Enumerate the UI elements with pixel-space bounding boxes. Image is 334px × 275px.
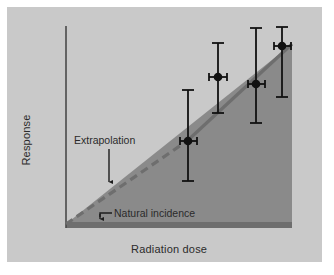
data-marker [278,42,287,51]
figure-container: Response Radiation dose Extrapolation Na… [0,0,334,275]
chart-canvas [0,0,334,275]
extrapolation-annotation-label: Extrapolation [74,134,135,146]
natural-incidence-annotation-label: Natural incidence [114,207,195,219]
data-marker [252,80,261,89]
y-axis-label: Response [20,105,32,175]
natural-incidence-band [66,222,292,228]
x-axis-label: Radiation dose [131,243,207,255]
data-marker [184,137,193,146]
data-marker [214,73,223,82]
